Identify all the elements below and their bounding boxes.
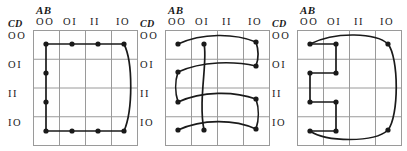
kmap-2-dot-IO-OI — [253, 63, 258, 68]
kmap-2-dot-OO-II — [175, 99, 180, 104]
kmap-1-dot-IO-OO — [121, 41, 126, 46]
kmap-1-dot-II-OO — [95, 41, 100, 46]
kmap-3-col-header-2: II — [354, 16, 364, 27]
kmap-3-ab-label: AB — [300, 4, 315, 16]
kmap-1-ab-label: AB — [36, 4, 51, 16]
kmap-1-dot-OO-IO — [43, 128, 48, 133]
kmap-1-dot-OO-OI — [43, 70, 48, 75]
kmap-3: AB CD OO OI II IO OO OI II IO — [264, 0, 407, 151]
kmap-1-row-header-3: IO — [8, 117, 22, 128]
kmap-2-dot-OO-OI — [175, 69, 180, 74]
kmap-2-row-header-3: IO — [140, 117, 154, 128]
kmap-3-dot-OO-OO — [307, 41, 312, 46]
kmap-2-dot-OO-OO — [175, 41, 180, 46]
kmap-3-col-header-0: OO — [300, 16, 318, 27]
kmap-2-dot-IO-II — [253, 96, 258, 101]
kmap-2-dot-OI-IO — [201, 127, 206, 132]
kmap-1-grid — [34, 31, 138, 146]
kmap-2-dot-IO-IO — [253, 126, 258, 131]
kmap-3-dot-OO-II — [307, 99, 312, 104]
kmap-1-dot-OI-IO — [69, 128, 74, 133]
kmap-1-dot-OO-OO — [43, 41, 48, 46]
kmap-3-col-header-3: IO — [380, 16, 394, 27]
kmap-2-row-header-2: II — [140, 88, 150, 99]
kmap-1-dot-OO-II — [43, 99, 48, 104]
kmap-3-dot-OI-OO — [333, 41, 338, 46]
kmap-1-row-header-2: II — [8, 88, 18, 99]
kmap-3-row-header-2: II — [272, 88, 282, 99]
kmap-3-dot-OI-OI — [333, 70, 338, 75]
kmap-3-row-header-0: OO — [272, 30, 290, 41]
kmap-1-col-header-0: OO — [36, 16, 54, 27]
kmap-3-dot-OO-OI — [307, 70, 312, 75]
kmap-3-dot-IO-OO — [385, 41, 390, 46]
kmap-3-cd-label: CD — [272, 18, 287, 29]
kmap-3-row-header-3: IO — [272, 117, 286, 128]
kmap-3-dot-IO-IO — [385, 127, 390, 132]
kmap-2-col-header-3: IO — [248, 16, 262, 27]
kmap-2-row-header-1: OI — [140, 59, 154, 70]
kmap-figure: AB CD OO OI II IO OO OI II IO — [0, 0, 407, 151]
kmap-2-row-OI-left-edge — [176, 72, 178, 102]
kmap-2-col-header-2: II — [222, 16, 232, 27]
kmap-1-col-header-2: II — [90, 16, 100, 27]
kmap-2-row-OO-right-edge — [256, 42, 258, 66]
kmap-3-grid — [298, 31, 402, 146]
kmap-1: AB CD OO OI II IO OO OI II IO — [0, 0, 140, 151]
kmap-2-dot-OI-OO — [201, 41, 206, 46]
kmap-3-row-header-1: OI — [272, 59, 286, 70]
kmap-3-dot-OI-IO — [333, 128, 338, 133]
kmap-1-dot-OI-OO — [69, 41, 74, 46]
kmap-2-col-header-1: OI — [195, 16, 209, 27]
kmap-2: AB CD OO OI II IO OO OI II IO — [132, 0, 272, 151]
kmap-2-row-II-right-edge — [256, 99, 258, 129]
kmap-2-row-header-0: OO — [140, 30, 158, 41]
kmap-3-dot-OO-IO — [307, 128, 312, 133]
kmap-3-col-header-1: OI — [327, 16, 341, 27]
kmap-1-row-header-1: OI — [8, 59, 22, 70]
kmap-1-cd-label: CD — [8, 18, 23, 29]
kmap-3-groups — [310, 35, 396, 140]
kmap-3-dot-OI-II — [333, 99, 338, 104]
kmap-2-dot-IO-OO — [253, 39, 258, 44]
kmap-2-ab-label: AB — [168, 4, 183, 16]
kmap-2-dot-OO-IO — [175, 127, 180, 132]
kmap-1-row-header-0: OO — [8, 30, 26, 41]
kmap-1-dot-IO-IO — [121, 128, 126, 133]
kmap-1-dot-II-IO — [95, 128, 100, 133]
kmap-1-col-header-3: IO — [116, 16, 130, 27]
kmap-2-col-header-0: OO — [168, 16, 186, 27]
kmap-3-outer-wrap-oval-group — [310, 35, 396, 140]
kmap-2-cd-label: CD — [140, 18, 155, 29]
kmap-1-col-header-1: OI — [63, 16, 77, 27]
